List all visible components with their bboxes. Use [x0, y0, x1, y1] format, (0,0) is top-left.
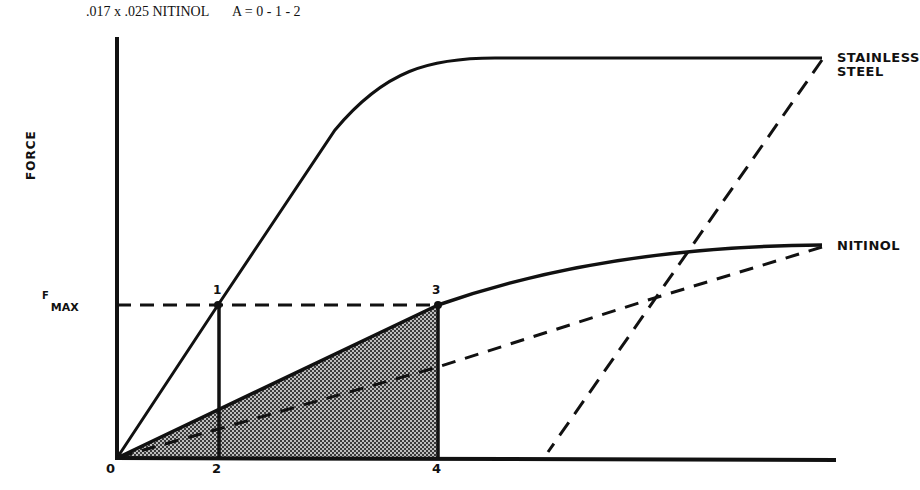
- x-tick-2: 2: [212, 461, 222, 476]
- x-tick-0: 0: [106, 461, 116, 476]
- stainless-steel-unloading-dashed: [548, 60, 822, 452]
- fmax-prefix: F: [42, 290, 49, 301]
- stainless-label-line1: STAINLESS: [837, 51, 920, 65]
- fmax-subscript: MAX: [51, 301, 79, 314]
- stainless-label-line2: STEEL: [837, 65, 920, 79]
- point-3-label: 3: [432, 283, 441, 297]
- point-1-label: 1: [213, 283, 222, 297]
- fmax-label: FMAX: [42, 290, 79, 309]
- point-1-marker: [214, 301, 222, 309]
- x-tick-4: 4: [432, 461, 442, 476]
- y-axis-label: FORCE: [24, 130, 38, 180]
- stainless-steel-curve: [117, 58, 822, 458]
- stainless-steel-label: STAINLESS STEEL: [837, 51, 920, 79]
- point-3-marker: [434, 301, 442, 309]
- x-axis: [115, 458, 836, 460]
- nitinol-label: NITINOL: [837, 239, 900, 253]
